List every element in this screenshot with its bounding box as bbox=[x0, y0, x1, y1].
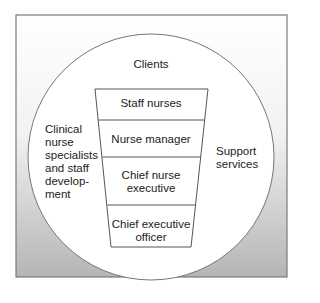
label-line: executive bbox=[101, 182, 201, 195]
level-staff-nurses: Staff nurses bbox=[101, 97, 201, 110]
label-line: Chief executive bbox=[101, 218, 201, 231]
support-services-label: Support services bbox=[216, 145, 276, 171]
level-chief-executive-officer: Chief executive officer bbox=[101, 218, 201, 244]
label-line: develop- bbox=[45, 175, 105, 188]
level-nurse-manager: Nurse manager bbox=[101, 133, 201, 146]
label-line: officer bbox=[101, 231, 201, 244]
label-line: Nurse manager bbox=[101, 133, 201, 146]
label-line: Support bbox=[216, 145, 276, 158]
label-line: and staff bbox=[45, 162, 105, 175]
level-chief-nurse-executive: Chief nurse executive bbox=[101, 169, 201, 195]
label-line: Chief nurse bbox=[101, 169, 201, 182]
clients-label: Clients bbox=[101, 58, 201, 71]
label-line: nurse bbox=[45, 136, 105, 149]
label-line: Clinical bbox=[45, 123, 105, 136]
clinical-specialists-label: Clinical nurse specialists and staff dev… bbox=[45, 123, 105, 201]
label-line: specialists bbox=[45, 149, 105, 162]
label-line: services bbox=[216, 158, 276, 171]
label-line: ment bbox=[45, 188, 105, 201]
label-line: Staff nurses bbox=[101, 97, 201, 110]
